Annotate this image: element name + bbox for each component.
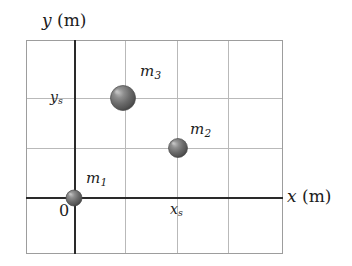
y-axis-label: y (m)	[42, 12, 86, 29]
mass-sphere-m3	[111, 86, 136, 111]
mass-symbol-m1: m	[86, 169, 100, 187]
xs-subscript: s	[178, 207, 183, 218]
ys-symbol: y	[50, 89, 58, 105]
mass-label-m3: m3	[140, 64, 161, 80]
mass-label-m2: m2	[190, 122, 211, 138]
mass-subscript-m1: 1	[101, 176, 108, 188]
y-axis-unit: (m)	[57, 10, 86, 30]
x-axis-variable: x	[287, 186, 297, 206]
mass-subscript-m2: 2	[205, 127, 212, 139]
mass-subscript-m3: 3	[155, 69, 162, 81]
x-axis-unit: (m)	[302, 186, 331, 206]
diagram-canvas	[0, 0, 352, 266]
physics-diagram: y (m) x (m) m1 m2 m3 ys xs 0	[0, 0, 352, 266]
y-axis-variable: y	[42, 10, 52, 30]
x-axis-label: x (m)	[287, 188, 331, 205]
ys-subscript: s	[58, 95, 63, 106]
xs-symbol: x	[170, 201, 178, 217]
mass-symbol-m3: m	[140, 62, 154, 80]
mass-label-m1: m1	[86, 171, 107, 187]
x-center-of-mass-label: xs	[170, 202, 183, 218]
mass-sphere-m2	[169, 139, 188, 158]
y-center-of-mass-label: ys	[50, 90, 63, 106]
mass-symbol-m2: m	[190, 120, 204, 138]
origin-label: 0	[59, 203, 69, 219]
